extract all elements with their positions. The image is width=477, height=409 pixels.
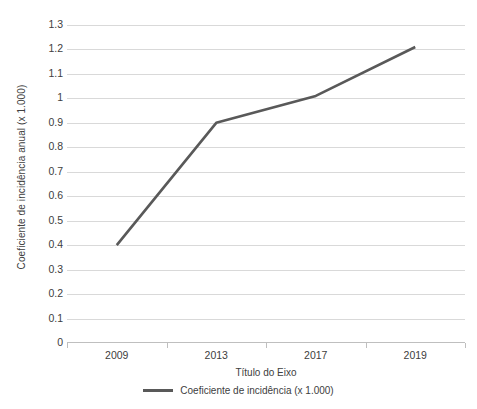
x-axis-tick-label: 2009: [67, 349, 167, 362]
y-axis-tick-label: 0.9: [30, 117, 63, 128]
plot-area: [67, 25, 465, 343]
y-axis-tick-label: 0.4: [30, 239, 63, 250]
x-axis-tick: [266, 343, 267, 348]
series-line: [117, 47, 416, 245]
y-axis-tick-label: 0.7: [30, 166, 63, 177]
x-axis-tick-labels: 2009201320172019: [67, 349, 465, 363]
y-axis-tick-label: 1.1: [30, 68, 63, 79]
x-axis-tick-label: 2017: [266, 349, 366, 362]
legend-item-label: Coeficiente de incidência (x 1.000): [180, 384, 333, 397]
x-axis-tick: [67, 343, 68, 348]
y-axis-tick-label: 1.2: [30, 43, 63, 54]
x-axis-tick: [465, 343, 466, 348]
y-axis-tick-label: 1: [30, 92, 63, 103]
y-axis-tick-label: 0.2: [30, 288, 63, 299]
legend-line-swatch-icon: [143, 389, 173, 392]
y-axis-tick-label: 0.3: [30, 264, 63, 275]
y-axis-tick-label: 0.1: [30, 313, 63, 324]
x-axis-title: Título do Eixo: [67, 366, 465, 379]
line-chart: Coeficiente de incidência anual (x 1.000…: [0, 0, 477, 409]
y-axis-tick-label: 0.5: [30, 215, 63, 226]
x-axis-tick: [167, 343, 168, 348]
y-axis-tick-label: 1.3: [30, 19, 63, 30]
y-axis-tick-label: 0.6: [30, 190, 63, 201]
chart-legend: Coeficiente de incidência (x 1.000): [0, 384, 477, 397]
y-axis-tick-label: 0: [30, 337, 63, 348]
x-axis-tick-label: 2013: [167, 349, 267, 362]
x-axis-tick-label: 2019: [366, 349, 466, 362]
series-plot: [67, 25, 465, 343]
x-axis-tick: [366, 343, 367, 348]
y-axis-tick-label: 0.8: [30, 141, 63, 152]
legend-item[interactable]: Coeficiente de incidência (x 1.000): [143, 384, 333, 397]
y-axis-title: Coeficiente de incidência anual (x 1.000…: [14, 12, 30, 342]
y-axis-tick-labels: 1.31.21.110.90.80.70.60.50.40.30.20.10: [30, 0, 63, 345]
